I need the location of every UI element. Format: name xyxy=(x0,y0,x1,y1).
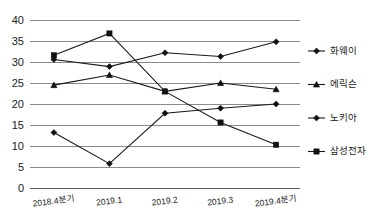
data-point xyxy=(218,54,224,60)
legend-marker xyxy=(314,115,320,121)
legend-label: 에릭슨 xyxy=(330,78,357,89)
series-4 xyxy=(51,31,278,148)
data-point xyxy=(106,64,112,70)
series-3 xyxy=(51,101,279,167)
data-point xyxy=(162,50,168,56)
legend-label: 화웨이 xyxy=(330,45,357,56)
legend-marker xyxy=(314,149,319,154)
x-tick-label: 2019.4분기 xyxy=(254,194,297,209)
legend-item-3[interactable]: 노키아 xyxy=(308,112,357,123)
y-tick-label: 35 xyxy=(12,35,24,47)
data-point xyxy=(162,89,167,94)
legend-item-1[interactable]: 화웨이 xyxy=(308,45,357,56)
x-tick-label: 2019.1 xyxy=(96,194,123,207)
y-tick-label: 40 xyxy=(12,14,24,26)
y-tick-label: 0 xyxy=(18,182,24,194)
y-tick-label: 20 xyxy=(12,98,24,110)
data-point xyxy=(274,142,279,147)
legend-label: 노키아 xyxy=(330,112,357,123)
legend-label: 삼성전자 xyxy=(330,145,366,156)
y-axis-tick-labels: 0510152025303540 xyxy=(12,14,24,194)
data-point xyxy=(106,72,112,78)
data-point xyxy=(273,101,279,107)
legend-item-2[interactable]: 에릭슨 xyxy=(308,78,357,89)
y-tick-label: 25 xyxy=(12,77,24,89)
y-tick-label: 5 xyxy=(18,161,24,173)
x-tick-label: 2019.3 xyxy=(207,194,234,207)
legend-item-4[interactable]: 삼성전자 xyxy=(308,145,366,156)
x-tick-label: 2018.4분기 xyxy=(32,194,75,209)
x-axis-tick-labels: 2018.4분기2019.12019.22019.32019.4분기 xyxy=(32,194,297,209)
y-tick-label: 10 xyxy=(12,140,24,152)
y-tick-label: 15 xyxy=(12,119,24,131)
x-tick-label: 2019.2 xyxy=(151,194,178,207)
data-point xyxy=(107,31,112,36)
y-tick-label: 30 xyxy=(12,56,24,68)
legend-marker xyxy=(314,48,320,54)
data-point xyxy=(51,130,57,136)
chart-legend: 화웨이에릭슨노키아삼성전자 xyxy=(308,45,366,157)
line-chart: 0510152025303540 2018.4분기2019.12019.2201… xyxy=(0,0,372,223)
data-point xyxy=(218,120,223,125)
chart-canvas: 0510152025303540 2018.4분기2019.12019.2201… xyxy=(0,0,372,223)
data-point xyxy=(273,39,279,45)
data-point xyxy=(218,105,224,111)
data-point xyxy=(51,53,56,58)
